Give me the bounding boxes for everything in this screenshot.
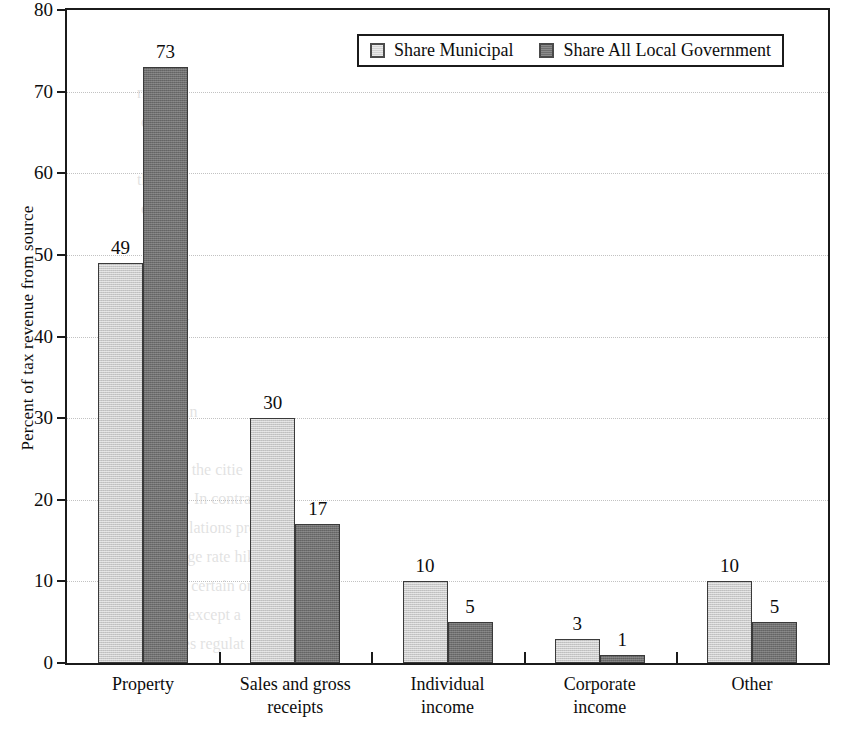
y-axis-tick-mark xyxy=(57,336,65,338)
bar-value-label: 1 xyxy=(588,630,657,649)
y-axis-tick-mark xyxy=(57,91,65,93)
y-axis-tick-label: 50 xyxy=(0,245,53,264)
x-axis-tick-mark xyxy=(219,652,221,663)
bar xyxy=(143,67,188,663)
bar xyxy=(98,263,143,663)
y-axis-tick-label: 20 xyxy=(0,490,53,509)
bar xyxy=(752,622,797,663)
legend-item-share-municipal[interactable]: Share Municipal xyxy=(370,40,513,61)
y-axis-tick-label: 70 xyxy=(0,82,53,101)
bar-chart: Percent of tax revenue from source 01020… xyxy=(0,0,848,729)
y-axis-tick-label: 10 xyxy=(0,571,53,590)
bar xyxy=(403,581,448,663)
x-axis-tick-mark xyxy=(371,652,373,663)
x-axis-tick-mark xyxy=(524,652,526,663)
y-axis-tick-mark xyxy=(57,580,65,582)
y-axis-tick-mark xyxy=(57,172,65,174)
light-gray-swatch-icon xyxy=(370,43,385,58)
bar xyxy=(448,622,493,663)
legend-label: Share Municipal xyxy=(394,40,513,61)
bar-value-label: 30 xyxy=(238,393,307,412)
y-axis-tick-label: 40 xyxy=(0,327,53,346)
y-axis-tick-mark xyxy=(57,499,65,501)
bar xyxy=(295,524,340,663)
legend: Share Municipal Share All Local Governme… xyxy=(357,34,784,67)
bar-value-label: 5 xyxy=(436,597,505,616)
y-axis-tick-mark xyxy=(57,417,65,419)
bar-value-label: 17 xyxy=(283,499,352,518)
legend-item-share-all-local-government[interactable]: Share All Local Government xyxy=(539,40,770,61)
legend-label: Share All Local Government xyxy=(563,40,770,61)
plot-area: righto prometheouseesticonand KENnonetar… xyxy=(65,8,830,665)
bar xyxy=(600,655,645,663)
y-axis-tick-mark xyxy=(57,662,65,664)
x-axis-category-label: Other xyxy=(652,673,848,696)
y-axis-tick-label: 80 xyxy=(0,0,53,19)
dark-gray-swatch-icon xyxy=(539,43,554,58)
y-axis-tick-mark xyxy=(57,9,65,11)
bar xyxy=(707,581,752,663)
bar-value-label: 5 xyxy=(740,597,809,616)
x-axis-tick-mark xyxy=(676,652,678,663)
bar-value-label: 10 xyxy=(391,556,460,575)
plot-inner: righto prometheouseesticonand KENnonetar… xyxy=(67,10,828,663)
y-axis-tick-label: 60 xyxy=(0,163,53,182)
y-axis-tick-mark xyxy=(57,254,65,256)
y-axis-tick-label: 0 xyxy=(0,653,53,672)
bar-value-label: 73 xyxy=(131,42,200,61)
bar-value-label: 10 xyxy=(695,556,764,575)
y-axis-tick-label: 30 xyxy=(0,408,53,427)
bar xyxy=(250,418,295,663)
